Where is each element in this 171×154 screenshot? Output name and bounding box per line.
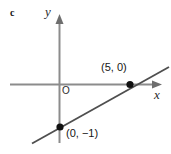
data-point-y-intercept [56, 123, 63, 130]
point-label-y-intercept: (0, −1) [66, 128, 98, 139]
plotted-line [32, 67, 169, 144]
origin-label: O [62, 86, 70, 96]
graph-figure: c y x O (5, 0) (0, −1) [0, 0, 171, 154]
x-axis-label: x [154, 88, 160, 101]
y-axis-label: y [45, 5, 51, 18]
part-label: c [10, 8, 14, 18]
point-label-x-intercept: (5, 0) [101, 62, 127, 73]
data-point-x-intercept [126, 81, 133, 88]
y-axis-arrowhead-icon [56, 14, 64, 24]
